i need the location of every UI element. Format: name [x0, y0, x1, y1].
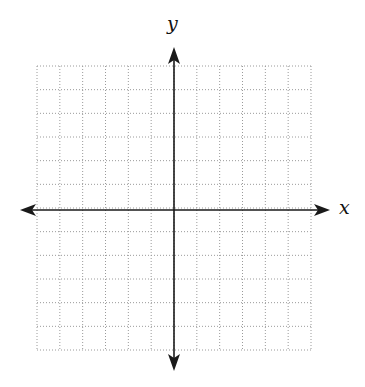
y-axis	[168, 47, 180, 371]
y-axis-label: y	[167, 14, 178, 33]
coordinate-plane	[0, 0, 365, 387]
x-axis	[20, 204, 330, 216]
x-axis-label: x	[339, 198, 350, 217]
